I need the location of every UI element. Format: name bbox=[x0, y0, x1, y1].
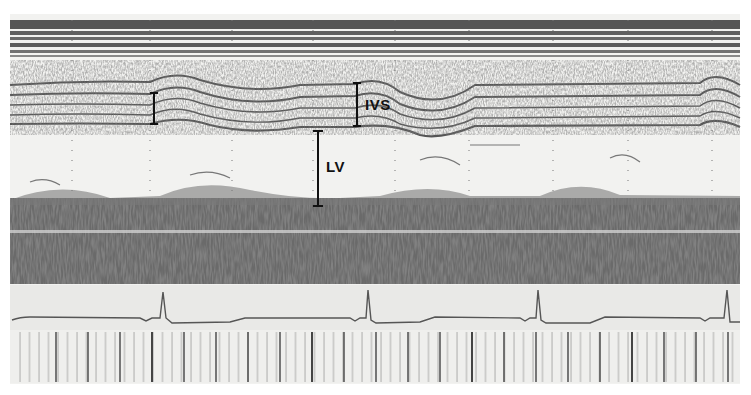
near-field-bands bbox=[10, 20, 740, 57]
ivs-label: IVS bbox=[365, 96, 391, 113]
posterior-wall bbox=[10, 185, 740, 284]
lv-label: LV bbox=[326, 158, 345, 175]
ecg-strip-background bbox=[10, 285, 740, 330]
time-markers bbox=[10, 330, 740, 383]
m-mode-echocardiogram bbox=[0, 0, 751, 395]
